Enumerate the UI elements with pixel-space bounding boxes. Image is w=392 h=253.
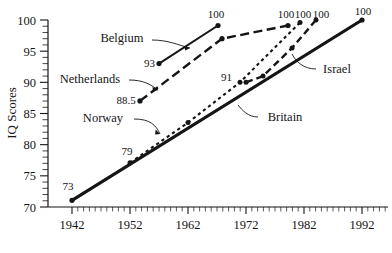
x-axis-minor-ticks bbox=[78, 207, 385, 212]
point-label-100-israel: 100 bbox=[313, 8, 330, 20]
series-label-belgium: Belgium bbox=[100, 31, 143, 45]
point-label-100-britain: 100 bbox=[355, 5, 372, 17]
y-tick-95: 95 bbox=[24, 45, 37, 59]
iq-scores-chart: 100 95 90 85 80 75 70 1942 1952 1962 197… bbox=[0, 0, 392, 253]
y-axis-major-ticks bbox=[40, 20, 48, 207]
y-tick-75: 75 bbox=[24, 169, 37, 183]
x-axis-tick-labels: 1942 1952 1962 1972 1982 1992 bbox=[60, 218, 375, 232]
chart-plot-area: 100 95 90 85 80 75 70 1942 1952 1962 197… bbox=[0, 0, 392, 253]
point-label-100-netherlands: 100 bbox=[278, 8, 295, 20]
series-label-israel: Israel bbox=[323, 62, 351, 76]
point-label-100-norway: 100 bbox=[295, 8, 312, 20]
point-label-93: 93 bbox=[144, 57, 156, 69]
point-label-100-belgium: 100 bbox=[208, 8, 225, 20]
y-axis-title: IQ Scores bbox=[4, 87, 19, 139]
point-label-73: 73 bbox=[63, 180, 75, 192]
point-label-88-5: 88.5 bbox=[116, 94, 136, 106]
point-label-79: 79 bbox=[122, 145, 134, 157]
x-tick-1952: 1952 bbox=[118, 218, 143, 232]
y-axis-tick-labels: 100 95 90 85 80 75 70 bbox=[17, 14, 36, 215]
series-label-britain: Britain bbox=[268, 110, 303, 124]
series-norway bbox=[128, 20, 303, 165]
series-label-netherlands: Netherlands bbox=[60, 72, 121, 86]
x-tick-1992: 1992 bbox=[350, 218, 375, 232]
y-tick-100: 100 bbox=[17, 14, 36, 28]
x-tick-1972: 1972 bbox=[234, 218, 259, 232]
x-tick-1942: 1942 bbox=[60, 218, 85, 232]
series-label-norway: Norway bbox=[83, 111, 124, 125]
y-tick-85: 85 bbox=[24, 107, 37, 121]
x-tick-1982: 1982 bbox=[292, 218, 317, 232]
y-tick-80: 80 bbox=[24, 138, 37, 152]
point-label-91: 91 bbox=[221, 71, 232, 83]
y-tick-90: 90 bbox=[24, 76, 37, 90]
y-tick-70: 70 bbox=[24, 201, 37, 215]
x-tick-1962: 1962 bbox=[176, 218, 201, 232]
series-belgium bbox=[156, 23, 220, 66]
